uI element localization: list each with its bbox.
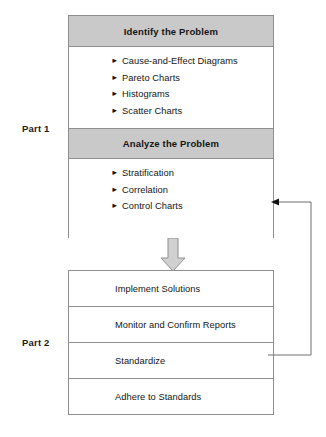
list-item: ► Control Charts (111, 201, 273, 215)
down-arrow-icon (159, 238, 187, 272)
triangle-bullet-icon: ► (111, 169, 122, 177)
triangle-bullet-icon: ► (111, 74, 122, 82)
analyze-the-problem-header: Analyze the Problem (69, 128, 273, 159)
part-1-box: Identify the Problem ► Cause-and-Effect … (68, 15, 274, 238)
analyze-the-problem-title: Analyze the Problem (123, 138, 219, 149)
analyze-the-problem-tools-list: ► Stratification ► Correlation ► Control… (69, 159, 273, 238)
triangle-bullet-icon: ► (111, 57, 122, 65)
process-step-label: Standardize (115, 356, 165, 366)
triangle-bullet-icon: ► (111, 90, 122, 98)
process-step-label: Monitor and Confirm Reports (115, 320, 236, 330)
list-item: ► Cause-and-Effect Diagrams (111, 56, 273, 70)
part-1-label: Part 1 (22, 123, 50, 134)
part-2-label: Part 2 (22, 337, 50, 348)
process-step-row: Adhere to Standards (69, 379, 273, 414)
process-step-row: Monitor and Confirm Reports (69, 307, 273, 343)
list-item-label: Control Charts (122, 201, 183, 211)
part-2-box: Implement Solutions Monitor and Confirm … (68, 270, 274, 415)
identify-the-problem-title: Identify the Problem (124, 26, 218, 37)
process-step-row: Standardize (69, 343, 273, 379)
triangle-bullet-icon: ► (111, 202, 122, 210)
diagram-canvas: Part 1 Part 2 Identify the Problem ► Cau… (0, 0, 326, 437)
triangle-bullet-icon: ► (111, 107, 122, 115)
list-item-label: Histograms (122, 89, 170, 99)
list-item: ► Stratification (111, 168, 273, 182)
process-step-label: Implement Solutions (115, 284, 200, 294)
identify-the-problem-header: Identify the Problem (69, 16, 273, 47)
list-item: ► Correlation (111, 185, 273, 199)
list-item-label: Cause-and-Effect Diagrams (122, 56, 238, 66)
list-item-label: Pareto Charts (122, 73, 180, 83)
list-item: ► Scatter Charts (111, 106, 273, 120)
list-item: ► Histograms (111, 89, 273, 103)
process-step-label: Adhere to Standards (115, 392, 201, 402)
list-item-label: Correlation (122, 185, 168, 195)
process-step-row: Implement Solutions (69, 271, 273, 307)
list-item-label: Scatter Charts (122, 106, 182, 116)
list-item-label: Stratification (122, 168, 174, 178)
list-item: ► Pareto Charts (111, 73, 273, 87)
identify-the-problem-tools-list: ► Cause-and-Effect Diagrams ► Pareto Cha… (69, 47, 273, 128)
triangle-bullet-icon: ► (111, 186, 122, 194)
feedback-loop-arrow-icon (268, 196, 318, 361)
